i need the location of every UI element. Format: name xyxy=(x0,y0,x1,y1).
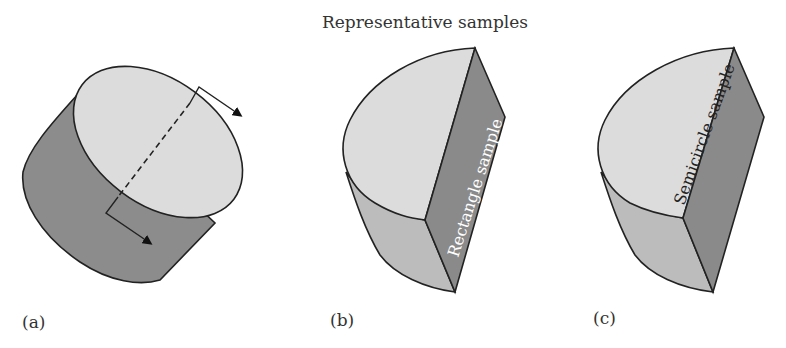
diagram-canvas: Rectangle sample Semicircle sample xyxy=(0,0,786,348)
panel-label-c: (c) xyxy=(593,308,616,328)
panel-label-a: (a) xyxy=(22,312,45,332)
rectangle-sample-shape: Rectangle sample xyxy=(343,48,506,292)
semicircle-sample-shape: Semicircle sample xyxy=(598,48,764,292)
panel-label-b: (b) xyxy=(330,310,354,330)
cylinder-shape xyxy=(23,35,271,282)
